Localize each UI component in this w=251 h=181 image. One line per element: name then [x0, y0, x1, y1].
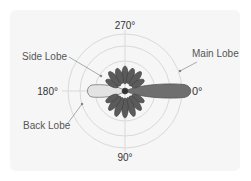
- back-lobe-label: Back Lobe: [23, 120, 71, 131]
- radiation-pattern-diagram: 270° 90° 180° 0° Side Lobe Main Lobe Bac…: [0, 0, 251, 181]
- angle-label-270: 270°: [115, 20, 136, 31]
- main-lobe-label: Main Lobe: [192, 48, 239, 59]
- main-lobe-leader: [180, 62, 197, 71]
- main-lobe-pointer-icon: [179, 70, 181, 72]
- angle-label-180: 180°: [37, 86, 58, 97]
- back-lobe-pointer-icon: [81, 103, 83, 105]
- angle-label-0: 0°: [192, 85, 203, 97]
- side-lobe-pointer-icon: [100, 75, 102, 77]
- angle-label-90: 90°: [117, 152, 132, 163]
- side-lobe-label: Side Lobe: [22, 51, 67, 62]
- back-lobe-shape: [88, 85, 126, 98]
